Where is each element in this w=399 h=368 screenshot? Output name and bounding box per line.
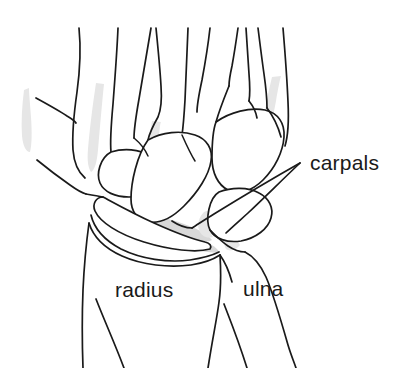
metacarpal-4-medial-line bbox=[246, 28, 250, 101]
metacarpal-3-lateral-line bbox=[182, 28, 188, 135]
ulna-lateral-shaft-line bbox=[245, 252, 296, 368]
label-ulna: ulna bbox=[243, 277, 284, 300]
thumb-branch-lower-line bbox=[37, 160, 86, 194]
ulna-medial-shaft-line bbox=[220, 255, 232, 282]
wrist-bones-illustration: carpals radius ulna bbox=[0, 0, 399, 368]
metacarpal-3-medial-line bbox=[197, 28, 210, 112]
radius-medial-shaft-line bbox=[208, 255, 221, 368]
thumb-branch-upper-line bbox=[36, 98, 76, 123]
metacarpal-1-lateral-line bbox=[73, 28, 85, 178]
radius-inner-crease-line bbox=[96, 299, 124, 368]
metacarpal-4-lateral-line bbox=[229, 28, 238, 86]
radius-lateral-shaft-line bbox=[82, 223, 89, 368]
ulna-inner-crease-line bbox=[224, 304, 247, 368]
carpal-capitate bbox=[131, 132, 211, 222]
label-radius: radius bbox=[115, 278, 173, 301]
metacarpal-2-lateral-line bbox=[134, 28, 151, 138]
metacarpal-5-lateral-line bbox=[258, 28, 267, 108]
metacarpal-1-medial-line bbox=[111, 28, 118, 152]
label-carpals: carpals bbox=[310, 151, 379, 174]
carpal-triquetrum bbox=[208, 188, 272, 241]
metacarpal-1-shading bbox=[88, 83, 104, 172]
carpal-hamate bbox=[212, 109, 284, 192]
anatomy-diagram: carpals radius ulna bbox=[0, 0, 399, 368]
carpal-left-shading bbox=[22, 88, 32, 152]
